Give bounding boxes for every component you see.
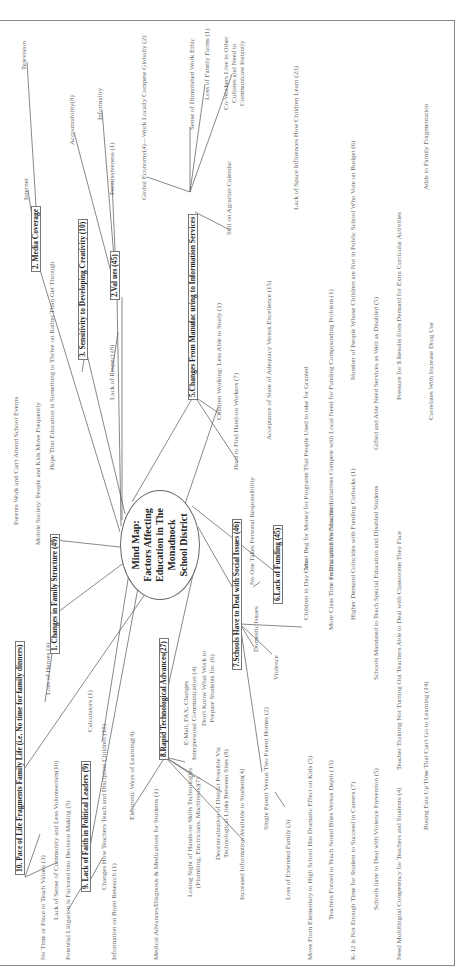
node-decentralization: Decentralization of District Possible Vi… <box>214 747 230 860</box>
node-hope: Hope That Education is Something to Thri… <box>48 262 56 470</box>
node-brain-research: Information on Brain Research (1) <box>110 863 118 960</box>
node-children-working: Children Working: Less Able to Study (1) <box>215 303 223 420</box>
node-no-time-values: No Time or Place to Teach Values (3) <box>39 855 47 960</box>
central-topic: Mind Map: Factors Affecting Education in… <box>120 490 200 600</box>
node-space: Lack of Space Influences How Children Le… <box>292 66 300 210</box>
node-medical: Medical Advances/Diagnosis & Medications… <box>152 789 160 960</box>
node-k12: K-12 is Not Enough Time for Student to S… <box>349 782 357 960</box>
node-heroes: Loss of Heroes (4) <box>44 643 52 695</box>
node-violence-prevention: Schools have to Deal with Violence Preve… <box>372 768 380 910</box>
node-extended-family: Loss of Extended Family (3) <box>284 820 292 901</box>
node-adequacy: Acceptance of State of Adequacy Versus E… <box>265 281 273 440</box>
branch-b5: 5.Changes From Manufac uring to Informat… <box>188 214 198 400</box>
node-calculators: Calculators (1) <box>86 690 94 732</box>
node-parents: Parents Work and Can't Attend School Eve… <box>12 397 20 525</box>
node-hands-on-skills: Losing Sight of Hands-on Skills Technolo… <box>186 768 202 897</box>
node-coworkers: Co-Workers Live in Other Cultures and Ne… <box>222 37 246 111</box>
node-agrarian: Still on Agrarian Calendar <box>225 161 233 235</box>
node-internet: Internet <box>22 178 30 200</box>
node-violence: Violence <box>272 655 280 680</box>
node-gifted: Gifted and Able Need Services as Well as… <box>372 297 380 450</box>
node-demand: Higher Demand Coincides with Funding Cut… <box>349 468 357 620</box>
node-litigation: Potential Litigation is Factored into De… <box>64 800 72 960</box>
node-domestic: Domestic Issues <box>252 606 260 652</box>
node-increased-info: Increased Information Available to Stude… <box>238 769 246 900</box>
node-day-care: Children in Day Care <box>302 560 310 620</box>
node-responsibility: No One Takes Personal Responsibility <box>248 477 256 585</box>
branch-b9: 9. Lack of Faith in Political Leaders (9… <box>81 761 91 892</box>
mind-map-page: Mind Map: Factors Affecting Education in… <box>0 0 460 972</box>
node-lack-respect: Lack of Respect (8) <box>108 345 116 400</box>
node-dont-know: Don't Know What Work to Prepare Students… <box>200 651 216 726</box>
branch-b3: 3. Sensitivity to Developing Creativity … <box>78 219 88 360</box>
branch-b2m: 2. Media Coverage <box>31 206 41 272</box>
node-hands-on: Hard to Find Hand-on Workers (7) <box>232 373 240 470</box>
node-permissiveness: Permissiveness (1) <box>108 142 116 195</box>
node-accountability: Accountability(8) <box>68 95 76 145</box>
branch-b1: 1. Changes in Family Structure (49) <box>50 534 60 654</box>
branch-b7: 7.Schools Have to Deal with Social Issue… <box>232 519 242 670</box>
node-television: Television <box>20 41 28 70</box>
node-busing: Busing Eats Up Time That Can't Go to Lea… <box>422 681 430 830</box>
node-fragmentation: Adds to Family Fragmentation <box>422 104 430 190</box>
node-email: E-Mail, FAX, Changes Interpersonal Commu… <box>182 666 198 760</box>
branch-b2v: 2.Val ues (45) <box>110 251 120 300</box>
node-discipline: More Class Time on Discipline Vs Educati… <box>327 503 335 630</box>
node-mandated: Schools Mandated to Teach Special Educat… <box>372 486 380 680</box>
node-work-ethic: Sense of Diminished Work Ethic <box>188 38 196 130</box>
node-family-farms: Loss of Family Farms (1) <box>203 28 211 100</box>
node-electronic: Electronic Ways of Learning(4) <box>128 731 136 820</box>
node-teach-discipline: Changes How Teachers Teach and Disciplin… <box>100 724 108 890</box>
node-voters: Number of People Whose Children are Not … <box>349 141 357 380</box>
node-elementary: Move From Elementary to High School Has … <box>306 756 314 960</box>
central-topic-title: Mind Map: Factors Affecting Education in… <box>130 508 190 582</box>
branch-b10: 10. Pace of Life Fragments Family Life (… <box>15 641 25 875</box>
node-drug-use: Correlates With Increase Drug Use <box>427 322 435 420</box>
branch-b8: 8.Rapid Technological Advances(27) <box>159 638 169 760</box>
node-sense-community: Lack of Sense of Community and Less Volu… <box>52 761 60 920</box>
node-global: Global Economy(4)—Work Locally Compete G… <box>140 36 148 200</box>
node-pressure: Pressure for $ Results from Demand for E… <box>395 212 403 400</box>
node-informality: Informality <box>96 88 104 120</box>
node-sound-bites: Teachers Forced to Teach Sound Bites Ver… <box>327 760 335 920</box>
branch-b6: 6.Lack of Funding (45) <box>273 525 283 604</box>
node-teacher-training: Teacher Training Not Turning Out Teacher… <box>395 531 403 770</box>
node-multilingual: Need Multilingual Competency for Teacher… <box>395 787 403 960</box>
node-beg: Must Beg for Money for Programs That Peo… <box>302 366 310 570</box>
node-single-parent: Single Parent Versus Two Parent Homes (2… <box>262 707 270 830</box>
node-mobile: Mobile Society: People and Kids Move Fre… <box>34 402 42 545</box>
